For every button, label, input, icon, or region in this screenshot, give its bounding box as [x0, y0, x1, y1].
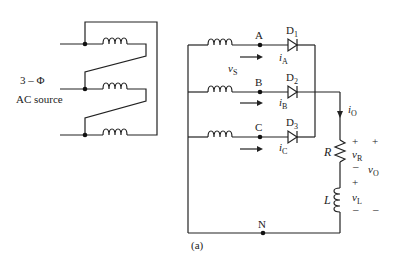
vo-label: vO	[368, 163, 379, 178]
node-a-label: A	[255, 29, 263, 41]
winding-2-inductor-icon	[103, 83, 127, 89]
phase-c-inductor-icon	[208, 131, 232, 137]
vr-minus: –	[352, 160, 359, 172]
vl-plus: +	[352, 176, 358, 188]
vl-minus: –	[352, 203, 359, 215]
node-n-label: N	[258, 218, 266, 230]
junction-dot-icon	[83, 87, 88, 92]
vo-minus: –	[372, 203, 379, 215]
arrow-right-icon	[257, 146, 263, 152]
diode-d3-icon	[288, 131, 297, 143]
node-c-dot	[258, 135, 263, 140]
load-inductor-icon	[334, 188, 340, 212]
ia-label: iA	[279, 51, 288, 66]
figure-caption: (a)	[191, 239, 204, 252]
arrow-right-icon	[257, 100, 263, 106]
resistor-label: R	[323, 145, 332, 159]
node-b-label: B	[255, 76, 262, 88]
output-current-arrow-icon	[337, 111, 343, 118]
diode-d1-icon	[288, 39, 297, 51]
vo-plus: +	[372, 135, 378, 147]
winding-3-inductor-icon	[103, 129, 127, 135]
vs-label: vS	[228, 62, 237, 77]
winding-1-inductor-icon	[103, 38, 127, 44]
node-c-label: C	[255, 121, 262, 133]
junction-dot-icon	[83, 42, 88, 47]
resistor-icon	[335, 140, 345, 162]
ac-source-windings	[60, 22, 157, 137]
ic-label: iC	[279, 141, 287, 156]
node-b-dot	[258, 90, 263, 95]
d2-label: D2	[286, 71, 298, 86]
source-phase-label: 3 – Φ	[20, 74, 45, 86]
ib-label: iB	[279, 96, 287, 111]
diode-d2-icon	[288, 86, 297, 98]
io-label: iO	[348, 103, 357, 118]
arrow-right-icon	[257, 54, 263, 60]
vr-plus: +	[352, 135, 358, 147]
inductor-label: L	[323, 193, 331, 207]
phase-a-inductor-icon	[208, 39, 232, 45]
three-phase-half-wave-rectifier-diagram: 3 – Φ AC source	[0, 0, 401, 265]
phase-b-inductor-icon	[208, 86, 232, 92]
node-a-dot	[258, 43, 263, 48]
d3-label: D3	[286, 116, 298, 131]
junction-dot-icon	[83, 133, 88, 138]
source-type-label: AC source	[16, 93, 63, 105]
node-n-dot	[261, 231, 266, 236]
d1-label: D1	[286, 24, 298, 39]
